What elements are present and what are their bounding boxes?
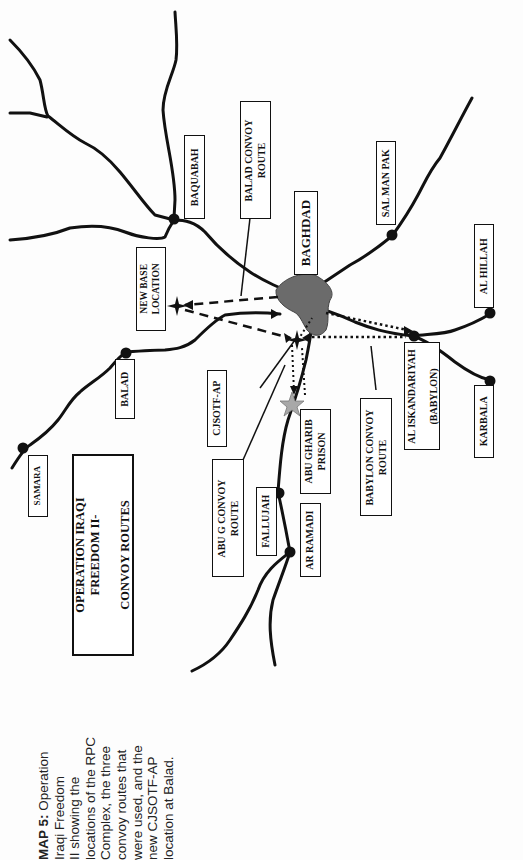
map-caption: MAP 5: Operation Iraqi Freedom II showin… — [36, 670, 176, 860]
label-baquabah: BAQUABAH — [184, 135, 205, 219]
new-base-star-icon — [167, 296, 187, 316]
caption-heading: MAP 5: — [36, 814, 51, 860]
baghdad-city-area — [276, 274, 332, 335]
caption-line-6: were used, and the — [130, 745, 145, 860]
label-abu-g-convoy-route: ABU G CONVOY ROUTE — [212, 459, 244, 577]
caption-line-0: Operation — [36, 751, 51, 814]
label-baghdad: BAGHDAD — [294, 191, 318, 275]
label-balad-convoy-route: BALAD CONVOY ROUTE — [240, 101, 271, 219]
label-balad: BALAD — [115, 359, 135, 419]
label-al-iskandariyah: AL ISKANDARIYAH (BABYLON) — [404, 342, 440, 450]
label-babylon-convoy-route: BABYLON CONVOY ROUTE — [360, 398, 392, 516]
label-cjsotf-ap: CJSOTF-AP — [207, 370, 227, 447]
map-title-box: OPERATION IRAQI FREEDOM II- CONVOY ROUTE… — [72, 454, 134, 656]
caption-line-7: new CJSOTF-AP — [145, 756, 160, 860]
balad-convoy-route — [185, 297, 290, 338]
label-karbala: KARBALA — [474, 385, 494, 458]
caption-line-1: Iraqi Freedom — [52, 776, 67, 860]
label-fallujah: FALLUJAH — [256, 487, 277, 556]
caption-line-5: convoy routes that — [114, 750, 129, 860]
caption-line-8: location at Balad. — [161, 756, 176, 860]
caption-line-3: locations of the RPC — [83, 737, 98, 860]
label-al-hillah: AL HILLAH — [474, 224, 494, 308]
label-new-base-location: NEW BASE LOCATION — [136, 247, 166, 331]
label-ar-ramadi: AR RAMADI — [300, 503, 321, 577]
label-samara: SAMARA — [28, 455, 48, 517]
caption-line-2: II showing the — [67, 777, 82, 860]
caption-line-4: Complex, the three — [98, 746, 113, 860]
label-sal-man-pak: SAL MAN PAK — [376, 141, 396, 225]
label-abu-ghraib-prison: ABU GHARIB PRISON — [300, 409, 331, 494]
